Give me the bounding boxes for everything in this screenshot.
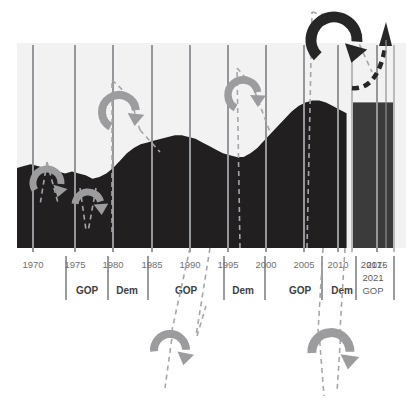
chart-figure: 1970 1975 1980 1985 1990 1995 2000 2005 … bbox=[0, 0, 406, 399]
party-label-gop-3: GOP bbox=[289, 285, 312, 296]
party-label-gop-4: GOP bbox=[362, 285, 383, 296]
final-period-line2: 2021 bbox=[362, 272, 383, 283]
x-tick-1980: 1980 bbox=[102, 259, 123, 270]
chart-svg: 1970 1975 1980 1985 1990 1995 2000 2005 … bbox=[0, 0, 406, 399]
x-tick-2005: 2005 bbox=[293, 259, 314, 270]
bar-2017-2021-gop bbox=[352, 102, 394, 248]
party-label-dem-1: Dem bbox=[116, 285, 138, 296]
party-label-gop-2: GOP bbox=[175, 285, 198, 296]
x-tick-1985: 1985 bbox=[141, 259, 162, 270]
party-label-gop-1: GOP bbox=[76, 285, 99, 296]
party-label-dem-2: Dem bbox=[232, 285, 254, 296]
x-tick-1995: 1995 bbox=[217, 259, 238, 270]
final-period-line1: 2017- bbox=[361, 259, 385, 270]
x-tick-1990: 1990 bbox=[179, 259, 200, 270]
x-tick-2000: 2000 bbox=[255, 259, 276, 270]
x-tick-1975: 1975 bbox=[64, 259, 85, 270]
x-tick-2010: 2010 bbox=[327, 259, 348, 270]
x-tick-1970: 1970 bbox=[22, 259, 43, 270]
